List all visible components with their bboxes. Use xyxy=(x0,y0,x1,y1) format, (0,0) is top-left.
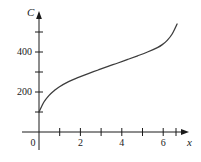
x-tick-label-2: 2 xyxy=(72,138,88,148)
y-axis-title: C xyxy=(27,7,34,18)
curve-c xyxy=(39,24,177,112)
y-axis-arrowhead xyxy=(36,11,42,19)
y-tick-label-200: 200 xyxy=(8,87,32,97)
x-axis-arrowhead xyxy=(181,129,189,135)
x-tick-label-6: 6 xyxy=(155,138,171,148)
x-axis-title: x xyxy=(187,137,192,148)
chart-figure: C x 200 400 0 2 4 6 xyxy=(0,0,201,162)
x-tick-label-0: 0 xyxy=(25,138,41,148)
x-tick-label-4: 4 xyxy=(114,138,130,148)
y-tick-label-400: 400 xyxy=(8,47,32,57)
